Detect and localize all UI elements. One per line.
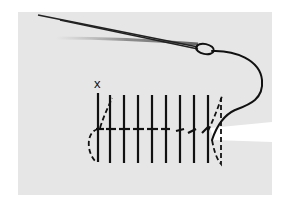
diagram-canvas: x bbox=[0, 0, 286, 214]
stitch-diagram: x bbox=[0, 0, 286, 214]
start-marker: x bbox=[94, 76, 101, 91]
